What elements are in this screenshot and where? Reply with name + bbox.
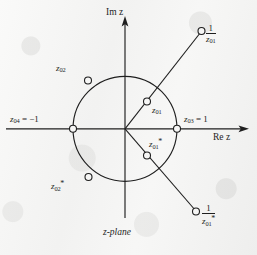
label-z01-conjugate: z01*: [149, 138, 162, 150]
imaginary-axis: [122, 16, 129, 218]
imaginary-axis-label: Im z: [106, 8, 123, 18]
z-plane-figure: Im z Re z z01 z01* z02 z02* z03 = 1 z04 …: [0, 0, 257, 255]
label-inverse-z01: 1 z01: [206, 23, 216, 44]
marker-z03: [174, 125, 181, 132]
marker-inverse-z01: [198, 28, 205, 35]
figure-caption: z-plane: [103, 228, 131, 238]
marker-inverse-z01-conjugate: [193, 208, 200, 215]
label-inverse-z01-conjugate: 1 z01*: [202, 203, 215, 226]
label-z02: z02: [56, 64, 66, 74]
label-z01: z01: [152, 106, 162, 116]
marker-z02: [85, 77, 92, 84]
marker-z02-conjugate: [85, 174, 92, 181]
marker-z01: [144, 98, 151, 105]
label-z02-conjugate: z02*: [51, 180, 64, 192]
diagram-vector-layer: [0, 0, 257, 255]
label-z04: z04 = −1: [10, 115, 39, 125]
real-axis-label: Re z: [213, 133, 230, 143]
marker-z04: [70, 125, 77, 132]
label-z03: z03 = 1: [184, 115, 208, 125]
marker-z01-conjugate: [144, 152, 151, 159]
